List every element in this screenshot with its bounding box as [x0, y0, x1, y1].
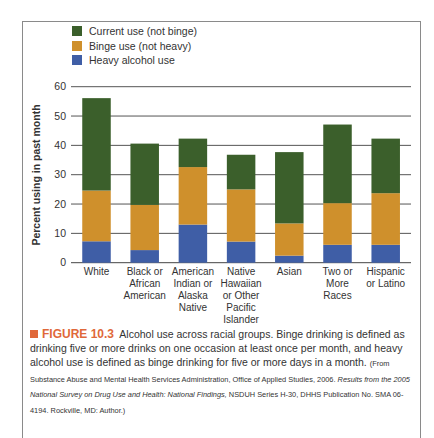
y-tick-label: 0 — [60, 256, 66, 268]
bar-segment-binge-use-not-heavy — [371, 193, 400, 245]
bar-segment-current-use-not-binge — [82, 98, 111, 190]
y-tick-label: 50 — [54, 110, 66, 122]
bar-segment-heavy-alcohol-use — [130, 250, 159, 263]
y-tick-label: 30 — [54, 168, 66, 180]
bar-segment-current-use-not-binge — [323, 125, 352, 204]
figure-caption: FIGURE 10.3 Alcohol use across racial gr… — [30, 327, 415, 417]
y-tick-label: 20 — [54, 198, 66, 210]
bar-segment-heavy-alcohol-use — [227, 242, 256, 263]
bar-segment-binge-use-not-heavy — [323, 203, 352, 245]
figure-label: FIGURE 10.3 — [42, 327, 114, 341]
bar-segment-heavy-alcohol-use — [323, 245, 352, 263]
y-tick-label: 60 — [54, 80, 66, 92]
bar-segment-current-use-not-binge — [275, 152, 304, 223]
x-tick-label: Hispanic or Latino — [356, 266, 416, 290]
y-tick-label: 40 — [54, 139, 66, 151]
bar-segment-heavy-alcohol-use — [82, 241, 111, 262]
bar-segment-binge-use-not-heavy — [82, 191, 111, 242]
y-tick-labels: 0102030405060 — [54, 80, 66, 268]
bar-segment-binge-use-not-heavy — [227, 189, 256, 241]
y-tick-label: 10 — [54, 227, 66, 239]
figure-marker-icon — [30, 330, 38, 338]
bars — [82, 98, 400, 263]
bar-segment-heavy-alcohol-use — [179, 225, 208, 263]
bar-segment-current-use-not-binge — [371, 139, 400, 194]
bar-segment-current-use-not-binge — [179, 139, 208, 167]
bar-segment-binge-use-not-heavy — [130, 205, 159, 250]
bar-segment-binge-use-not-heavy — [275, 223, 304, 255]
bar-segment-binge-use-not-heavy — [179, 167, 208, 224]
bar-segment-heavy-alcohol-use — [371, 245, 400, 263]
bar-segment-heavy-alcohol-use — [275, 256, 304, 263]
bar-segment-current-use-not-binge — [227, 155, 256, 190]
bar-segment-current-use-not-binge — [130, 144, 159, 205]
